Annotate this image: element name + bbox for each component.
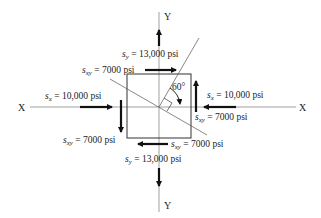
- angle-label: 60°: [172, 82, 186, 92]
- sx-left-label: sx = 10,000 psi: [45, 91, 102, 103]
- sxy-left-label: sxy = 7000 psi: [63, 135, 116, 147]
- axis-label-y-top: Y: [164, 11, 171, 22]
- axis-label-y-bottom: Y: [164, 200, 171, 211]
- axis-label-x-left: X: [18, 102, 26, 113]
- stress-element-diagram: Y Y X X 60° sy = 13,000 psi sxy = 7000 p…: [0, 0, 321, 218]
- sy-bottom-label: sy = 13,000 psi: [125, 154, 182, 166]
- axis-label-x-right: X: [299, 102, 307, 113]
- sxy-bottom-label: sxy = 7000 psi: [171, 139, 224, 151]
- sx-right-label: sx = 10,000 psi: [207, 90, 264, 102]
- sy-top-label: sy = 13,000 psi: [122, 49, 179, 61]
- right-angle-marker: [164, 98, 172, 111]
- sxy-right-label: sxy = 7000 psi: [195, 112, 248, 124]
